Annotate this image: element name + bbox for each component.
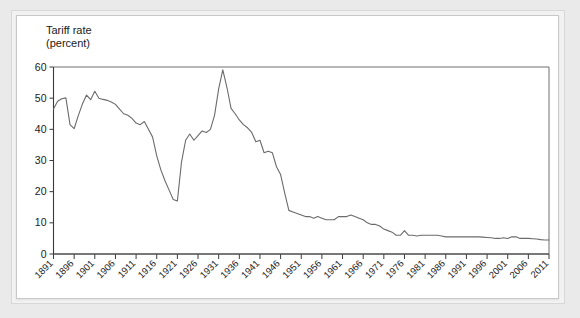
x-axis-tick-label: 1986 — [424, 258, 447, 281]
x-axis-tick-label: 1926 — [177, 258, 200, 281]
y-axis-ticks — [50, 67, 54, 254]
x-axis-tick-label: 1956 — [301, 258, 324, 281]
x-axis-tick-label: 1951 — [280, 258, 303, 281]
x-axis-tick-label: 2001 — [486, 258, 509, 281]
tariff-rate-line — [54, 70, 550, 240]
x-axis-tick-label: 1946 — [259, 258, 282, 281]
chart-svg: 0102030405060 18911896190119061911191619… — [17, 16, 558, 298]
y-axis-tick-labels: 0102030405060 — [35, 61, 47, 260]
x-axis-tick-label: 1931 — [197, 258, 220, 281]
plot-frame — [54, 67, 550, 254]
chart-card: Tariff rate(percent) 0102030405060 18911… — [16, 15, 559, 299]
x-axis-tick-label: 1971 — [363, 258, 386, 281]
plot-area: 0102030405060 18911896190119061911191619… — [17, 16, 558, 298]
x-axis-tick-label: 1976 — [383, 258, 406, 281]
y-axis-tick-label: 30 — [35, 154, 47, 166]
x-axis-tick-label: 1921 — [156, 258, 179, 281]
x-axis-tick-label: 1941 — [239, 258, 262, 281]
x-axis-tick-labels: 1891189619011906191119161921192619311936… — [32, 258, 550, 281]
y-axis-tick-label: 50 — [35, 92, 47, 104]
x-axis-tick-label: 2006 — [507, 258, 530, 281]
x-axis-tick-label: 1906 — [94, 258, 117, 281]
y-axis-tick-label: 10 — [35, 216, 47, 228]
y-axis-tick-label: 60 — [35, 61, 47, 73]
x-axis-tick-label: 1996 — [466, 258, 489, 281]
x-axis-tick-label: 1966 — [342, 258, 365, 281]
x-axis-tick-label: 1896 — [53, 258, 76, 281]
x-axis-tick-label: 1936 — [218, 258, 241, 281]
x-axis-tick-label: 1991 — [445, 258, 468, 281]
x-axis-tick-label: 1916 — [135, 258, 158, 281]
x-axis-tick-label: 1901 — [73, 258, 96, 281]
x-axis-tick-label: 1961 — [321, 258, 344, 281]
y-axis-tick-label: 40 — [35, 123, 47, 135]
x-axis-tick-label: 2011 — [528, 258, 550, 280]
chart-screenshot: Tariff rate(percent) 0102030405060 18911… — [0, 0, 580, 318]
x-axis-tick-label: 1981 — [404, 258, 427, 281]
x-axis-tick-label: 1911 — [115, 258, 137, 280]
x-axis-tick-label: 1891 — [32, 258, 55, 281]
y-axis-tick-label: 20 — [35, 185, 47, 197]
